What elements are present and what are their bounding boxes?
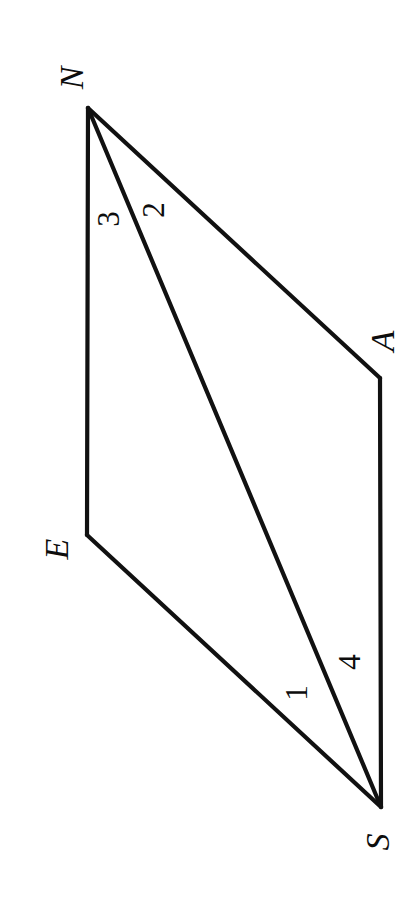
vertex-label-A: A: [366, 331, 400, 352]
edge-AS: [380, 378, 381, 807]
angle-label-1: 1: [281, 685, 312, 701]
angle-label-3: 3: [93, 211, 124, 227]
geometry-figure: N A E S 3 2 1 4: [0, 0, 419, 917]
figure-background: [0, 0, 419, 917]
vertex-label-E: E: [40, 539, 74, 560]
figure-line-art: [0, 0, 419, 917]
angle-label-4: 4: [334, 654, 365, 670]
vertex-label-N: N: [55, 67, 89, 90]
angle-label-2: 2: [138, 202, 169, 218]
edge-EN: [87, 108, 88, 535]
vertex-label-S: S: [361, 834, 395, 851]
